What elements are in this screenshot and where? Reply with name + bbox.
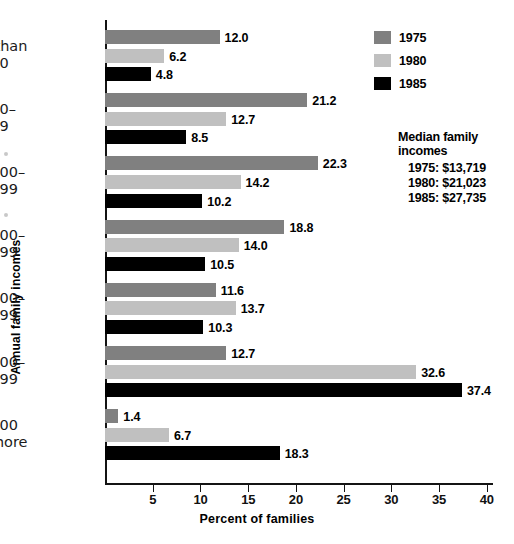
median-row: 1975: $13,719 — [408, 161, 514, 176]
bar-value-label: 10.2 — [207, 195, 231, 209]
category-label-line: $19,999 — [0, 244, 108, 261]
legend: 197519801985 — [374, 28, 426, 97]
bar-1975 — [105, 30, 220, 44]
legend-label: 1975 — [399, 31, 426, 45]
legend-swatch — [374, 31, 391, 44]
x-tick — [248, 485, 249, 492]
category-label: Less than$5,000 — [0, 38, 108, 72]
bar-value-label: 13.7 — [241, 302, 265, 316]
category-label-line: $20,000– — [0, 290, 108, 307]
x-tick — [153, 485, 154, 492]
x-tick — [296, 485, 297, 492]
category-label-line: $5,000 — [0, 55, 108, 72]
bar-value-label: 22.3 — [323, 157, 347, 171]
bar-1980 — [105, 49, 164, 63]
bar-value-label: 32.6 — [421, 366, 445, 380]
category-label-line: $10,000– — [0, 164, 108, 181]
x-tick — [487, 485, 488, 492]
category-label-line: $15,000– — [0, 227, 108, 244]
legend-label: 1985 — [399, 77, 426, 91]
bar-1980 — [105, 365, 416, 379]
category-label-line: $14,999 — [0, 181, 108, 198]
bar-value-label: 10.5 — [210, 258, 234, 272]
bar-1975 — [105, 93, 307, 107]
bar-1980 — [105, 175, 241, 189]
bar-group: $15,000–$19,99918.814.010.5 — [0, 220, 514, 271]
category-label-line: $9,999 — [0, 118, 108, 135]
legend-item: 1980 — [374, 51, 426, 70]
bar-value-label: 11.6 — [221, 284, 244, 298]
bar-group: $20,000–$24,99911.613.710.3 — [0, 283, 514, 334]
bar-value-label: 18.3 — [285, 447, 309, 461]
bar-1980 — [105, 238, 239, 252]
bar-1985 — [105, 320, 203, 334]
bar-value-label: 1.4 — [123, 410, 140, 424]
median-rows: 1975: $13,7191980: $21,0231985: $27,735 — [398, 161, 514, 206]
bar-1985 — [105, 257, 205, 271]
bar-1985 — [105, 446, 280, 460]
bar-1980 — [105, 428, 169, 442]
x-tick-label: 35 — [424, 492, 454, 507]
bar-1975 — [105, 220, 284, 234]
bar-1985 — [105, 383, 462, 397]
legend-item: 1975 — [374, 28, 426, 47]
category-label: $15,000–$19,999 — [0, 227, 108, 261]
category-label-line: $24,999 — [0, 307, 108, 324]
category-label: $25,000–$49,999 — [0, 354, 108, 388]
bar-group: Less than$5,00012.06.24.8 — [0, 30, 514, 81]
bar-value-label: 14.2 — [246, 176, 270, 190]
x-tick — [439, 485, 440, 492]
bar-value-label: 12.0 — [225, 31, 249, 45]
category-label-line: and more — [0, 434, 108, 451]
bar-1980 — [105, 112, 226, 126]
bar-1985 — [105, 194, 202, 208]
bar-value-label: 8.5 — [191, 131, 208, 145]
bar-1980 — [105, 301, 236, 315]
category-label-line: Less than — [0, 38, 108, 55]
x-tick-label: 25 — [329, 492, 359, 507]
median-income-annotation: Median family incomes 1975: $13,7191980:… — [398, 130, 514, 206]
x-tick — [344, 485, 345, 492]
median-title: Median family incomes — [398, 130, 514, 158]
bar-value-label: 37.4 — [467, 384, 491, 398]
category-label: $20,000–$24,999 — [0, 290, 108, 324]
category-label-line: $5,000– — [0, 101, 108, 118]
bar-1985 — [105, 130, 186, 144]
bar-value-label: 6.7 — [174, 429, 191, 443]
bar-value-label: 21.2 — [312, 94, 336, 108]
x-tick — [391, 485, 392, 492]
x-axis-title: Percent of families — [0, 512, 514, 526]
x-tick-label: 40 — [472, 492, 502, 507]
x-tick-label: 30 — [376, 492, 406, 507]
bar-value-label: 12.7 — [231, 347, 255, 361]
category-label: $50,000and more — [0, 417, 108, 451]
legend-swatch — [374, 54, 391, 67]
x-tick-label: 5 — [138, 492, 168, 507]
bar-group: $25,000–$49,99912.732.637.4 — [0, 346, 514, 397]
scan-artifact — [4, 213, 8, 217]
category-label: $5,000–$9,999 — [0, 101, 108, 135]
bar-group: $50,000and more1.46.718.3 — [0, 409, 514, 460]
legend-item: 1985 — [374, 74, 426, 93]
bar-1985 — [105, 67, 151, 81]
x-axis-line — [105, 483, 493, 485]
x-tick-label: 15 — [233, 492, 263, 507]
bar-value-label: 18.8 — [289, 221, 313, 235]
median-row: 1980: $21,023 — [408, 176, 514, 191]
legend-swatch — [374, 77, 391, 90]
x-tick-label: 10 — [185, 492, 215, 507]
x-tick — [200, 485, 201, 492]
bar-chart: 510152025303540 Percent of families Annu… — [0, 0, 514, 544]
bar-value-label: 4.8 — [156, 68, 173, 82]
bar-value-label: 14.0 — [244, 239, 268, 253]
bar-1975 — [105, 283, 216, 297]
bar-1975 — [105, 409, 118, 423]
bar-1975 — [105, 346, 226, 360]
category-label-line: $50,000 — [0, 417, 108, 434]
bar-value-label: 6.2 — [169, 50, 186, 64]
median-row: 1985: $27,735 — [408, 191, 514, 206]
bar-value-label: 12.7 — [231, 113, 255, 127]
bar-1975 — [105, 156, 318, 170]
bar-value-label: 10.3 — [208, 321, 232, 335]
scan-artifact — [4, 152, 8, 156]
